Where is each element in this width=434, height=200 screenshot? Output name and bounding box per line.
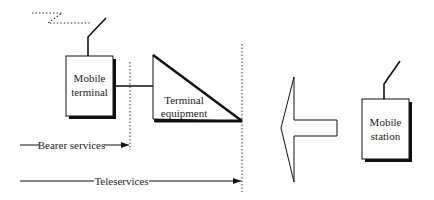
mobile-terminal-box: Mobile terminal (66, 56, 116, 119)
teleservices-label: Teleservices (94, 175, 148, 187)
teleservices-span: Teleservices (20, 175, 241, 187)
station-antenna-icon (384, 61, 400, 99)
antenna-icon (88, 18, 106, 56)
bearer-services-span: Bearer services (20, 139, 129, 151)
services-diagram: Mobile terminal Terminal equipment Beare… (0, 0, 434, 200)
mobile-station-box: Mobile station (362, 99, 412, 162)
mobile-terminal-label-1: Mobile (74, 72, 106, 84)
bearer-services-label: Bearer services (38, 139, 106, 151)
terminal-equipment-label-2: equipment (161, 107, 207, 119)
left-arrow-icon (281, 77, 337, 182)
mobile-station-label-2: station (371, 130, 401, 142)
mobile-terminal-label-2: terminal (71, 86, 108, 98)
terminal-equipment-label-1: Terminal (164, 94, 204, 106)
mobile-station-label-1: Mobile (370, 116, 402, 128)
terminal-equipment-triangle: Terminal equipment (153, 55, 242, 122)
radio-signal-icon (32, 13, 90, 23)
